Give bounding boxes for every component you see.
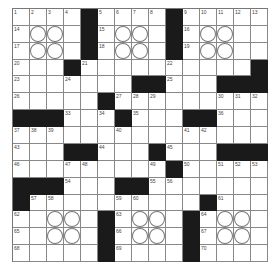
grid-cell[interactable]: 56 [166,178,183,195]
grid-cell[interactable] [64,93,81,110]
grid-cell[interactable]: 37 [13,127,30,144]
grid-cell[interactable] [166,228,183,245]
grid-cell[interactable] [47,93,64,110]
grid-cell[interactable]: 3 [47,9,64,26]
grid-cell[interactable] [234,178,251,195]
grid-cell[interactable] [47,245,64,262]
grid-cell[interactable] [47,211,64,228]
grid-cell[interactable]: 6 [115,9,132,26]
grid-cell[interactable]: 18 [98,43,115,60]
grid-cell[interactable]: 62 [13,211,30,228]
grid-cell[interactable] [47,60,64,77]
grid-cell[interactable]: 35 [132,110,149,127]
grid-cell[interactable] [64,211,81,228]
grid-cell[interactable] [149,211,166,228]
grid-cell[interactable] [30,144,47,161]
grid-cell[interactable] [217,245,234,262]
grid-cell[interactable] [115,60,132,77]
grid-cell[interactable]: 49 [149,161,166,178]
grid-cell[interactable] [64,127,81,144]
grid-cell[interactable]: 1 [13,9,30,26]
grid-cell[interactable]: 36 [217,110,234,127]
grid-cell[interactable]: 50 [183,161,200,178]
grid-cell[interactable] [166,93,183,110]
grid-cell[interactable]: 12 [234,9,251,26]
grid-cell[interactable]: 41 [183,127,200,144]
grid-cell[interactable] [132,161,149,178]
grid-cell[interactable] [234,127,251,144]
grid-cell[interactable] [64,26,81,43]
grid-cell[interactable]: 38 [30,127,47,144]
grid-cell[interactable] [166,195,183,212]
grid-cell[interactable] [81,228,98,245]
grid-cell[interactable]: 7 [132,9,149,26]
grid-cell[interactable]: 27 [115,93,132,110]
grid-cell[interactable] [149,26,166,43]
grid-cell[interactable] [98,127,115,144]
grid-cell[interactable]: 51 [217,161,234,178]
grid-cell[interactable] [115,26,132,43]
grid-cell[interactable] [251,127,268,144]
grid-cell[interactable] [149,195,166,212]
grid-cell[interactable]: 47 [64,161,81,178]
grid-cell[interactable] [183,76,200,93]
grid-cell[interactable] [132,26,149,43]
grid-cell[interactable]: 53 [251,161,268,178]
grid-cell[interactable] [98,60,115,77]
grid-cell[interactable]: 40 [115,127,132,144]
grid-cell[interactable]: 8 [149,9,166,26]
grid-cell[interactable]: 48 [81,161,98,178]
grid-cell[interactable] [234,26,251,43]
grid-cell[interactable]: 2 [30,9,47,26]
grid-cell[interactable] [132,43,149,60]
grid-cell[interactable] [98,178,115,195]
grid-cell[interactable] [166,245,183,262]
grid-cell[interactable] [217,60,234,77]
grid-cell[interactable] [234,60,251,77]
grid-cell[interactable] [166,127,183,144]
grid-cell[interactable]: 46 [13,161,30,178]
grid-cell[interactable] [115,43,132,60]
grid-cell[interactable] [30,228,47,245]
grid-cell[interactable] [132,144,149,161]
grid-cell[interactable] [30,245,47,262]
grid-cell[interactable] [30,43,47,60]
grid-cell[interactable]: 69 [115,245,132,262]
grid-cell[interactable]: 29 [149,93,166,110]
grid-cell[interactable] [98,195,115,212]
grid-cell[interactable] [115,76,132,93]
grid-cell[interactable] [200,60,217,77]
grid-cell[interactable]: 70 [200,245,217,262]
grid-cell[interactable] [251,228,268,245]
grid-cell[interactable] [183,93,200,110]
grid-cell[interactable] [166,211,183,228]
grid-cell[interactable] [30,161,47,178]
grid-cell[interactable]: 58 [47,195,64,212]
grid-cell[interactable] [183,144,200,161]
grid-cell[interactable] [217,211,234,228]
grid-cell[interactable] [251,211,268,228]
grid-cell[interactable] [166,110,183,127]
grid-cell[interactable] [251,195,268,212]
grid-cell[interactable]: 20 [13,60,30,77]
grid-cell[interactable] [217,43,234,60]
grid-cell[interactable] [149,110,166,127]
grid-cell[interactable] [115,144,132,161]
grid-cell[interactable] [98,161,115,178]
grid-cell[interactable]: 14 [13,26,30,43]
grid-cell[interactable] [132,245,149,262]
grid-cell[interactable] [200,93,217,110]
grid-cell[interactable] [47,161,64,178]
grid-cell[interactable] [200,161,217,178]
grid-cell[interactable]: 67 [200,228,217,245]
grid-cell[interactable]: 54 [64,178,81,195]
grid-cell[interactable] [234,245,251,262]
grid-cell[interactable]: 68 [13,245,30,262]
grid-cell[interactable] [115,161,132,178]
grid-cell[interactable] [234,195,251,212]
grid-cell[interactable] [98,76,115,93]
grid-cell[interactable] [217,127,234,144]
grid-cell[interactable] [81,127,98,144]
grid-cell[interactable]: 61 [217,195,234,212]
grid-cell[interactable] [251,178,268,195]
